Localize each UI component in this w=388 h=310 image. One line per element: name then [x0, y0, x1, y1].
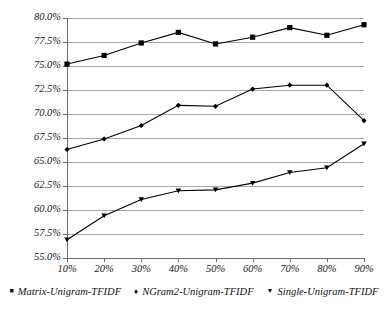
- square-marker-icon: [361, 22, 366, 27]
- data-series-layer: [0, 0, 388, 310]
- legend-label: Matrix-Unigram-TFIDF: [18, 286, 121, 297]
- triangle-down-marker-icon: [64, 238, 70, 243]
- series-diamond: [64, 83, 366, 153]
- square-marker-icon: ■: [10, 288, 14, 295]
- diamond-marker-icon: [250, 86, 255, 91]
- diamond-marker-icon: [139, 123, 144, 128]
- diamond-marker-icon: [176, 103, 181, 108]
- series-square: [64, 22, 366, 67]
- square-marker-icon: [139, 40, 144, 45]
- triangle-down-marker-icon: ▼: [267, 288, 274, 295]
- square-marker-icon: [64, 61, 69, 66]
- legend-item: ♦NGram2-Unigram-TFIDF: [134, 286, 254, 297]
- series-line: [67, 85, 364, 149]
- square-marker-icon: [287, 25, 292, 30]
- square-marker-icon: [250, 35, 255, 40]
- legend-label: NGram2-Unigram-TFIDF: [142, 286, 253, 297]
- diamond-marker-icon: [287, 83, 292, 88]
- square-marker-icon: [213, 41, 218, 46]
- diamond-marker-icon: [213, 104, 218, 109]
- diamond-marker-icon: [64, 147, 69, 152]
- square-marker-icon: [176, 30, 181, 35]
- legend-label: Single-Unigram-TFIDF: [278, 286, 379, 297]
- legend-item: ▼Single-Unigram-TFIDF: [267, 286, 379, 297]
- diamond-marker-icon: [102, 136, 107, 141]
- triangle-down-marker-icon: [138, 197, 144, 202]
- square-marker-icon: [324, 33, 329, 38]
- diamond-marker-icon: ♦: [134, 288, 138, 296]
- series-triangle-down: [64, 142, 367, 243]
- legend-item: ■Matrix-Unigram-TFIDF: [10, 286, 121, 297]
- line-chart: 55.0%57.5%60.0%62.5%65.0%67.5%70.0%72.5%…: [0, 0, 388, 310]
- chart-legend: ■Matrix-Unigram-TFIDF♦NGram2-Unigram-TFI…: [0, 286, 388, 297]
- square-marker-icon: [102, 53, 107, 58]
